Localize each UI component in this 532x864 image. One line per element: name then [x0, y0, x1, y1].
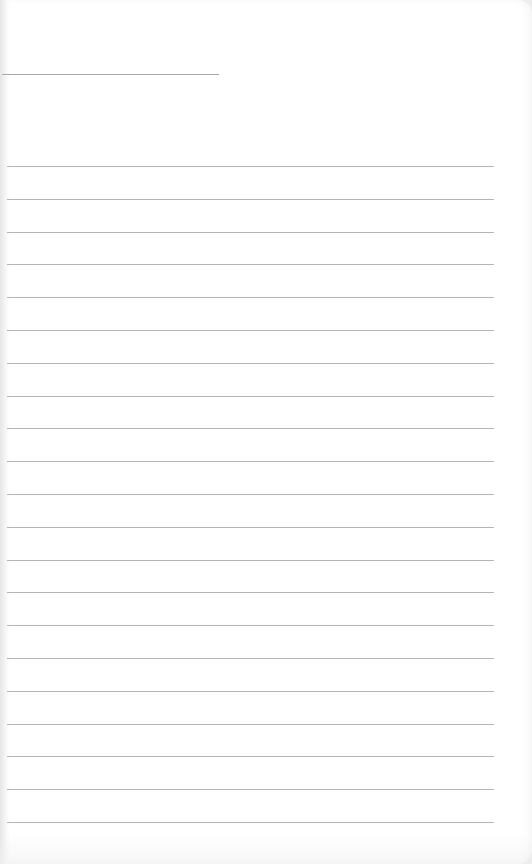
- ruled-line: [7, 658, 494, 659]
- ruled-line: [7, 428, 494, 429]
- ruled-line: [7, 396, 494, 397]
- ruled-line: [7, 264, 494, 265]
- ruled-line: [7, 625, 494, 626]
- ruled-line: [7, 724, 494, 725]
- notebook-page: [0, 0, 532, 864]
- ruled-line: [7, 560, 494, 561]
- ruled-line: [7, 592, 494, 593]
- ruled-line: [7, 232, 494, 233]
- ruled-line: [7, 789, 494, 790]
- perforated-edge: [0, 0, 10, 864]
- page-bottom-shadow: [0, 834, 532, 864]
- ruled-line: [7, 330, 494, 331]
- ruled-line: [7, 822, 494, 823]
- ruled-line: [7, 461, 494, 462]
- ruled-line: [7, 756, 494, 757]
- ruled-line: [7, 199, 494, 200]
- ruled-line: [7, 297, 494, 298]
- ruled-line: [7, 166, 494, 167]
- title-line: [2, 74, 219, 75]
- ruled-line: [7, 527, 494, 528]
- ruled-line: [7, 691, 494, 692]
- ruled-line: [7, 363, 494, 364]
- ruled-line: [7, 494, 494, 495]
